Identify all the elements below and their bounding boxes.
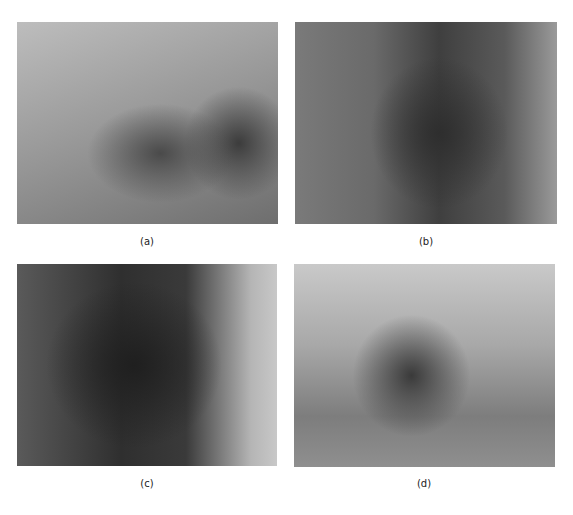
panel-label-a: (a) (117, 236, 177, 248)
photo-b (295, 22, 557, 224)
photo-d (294, 264, 555, 467)
photo-c (17, 264, 277, 466)
panel-label-b: (b) (396, 236, 456, 248)
panel-label-d: (d) (394, 478, 454, 490)
panel-label-c: (c) (117, 478, 177, 490)
photo-a (17, 22, 278, 224)
